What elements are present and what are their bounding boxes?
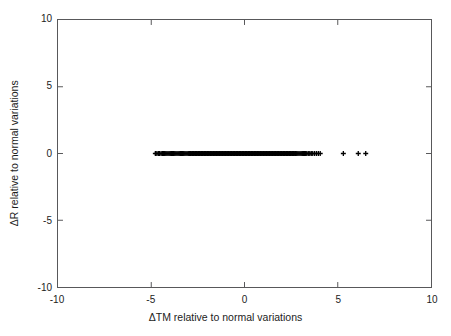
data-series-observations <box>153 151 368 156</box>
y-tick-label: -5 <box>28 216 52 226</box>
plot-area <box>57 19 432 288</box>
x-tick-label: -5 <box>146 295 155 305</box>
y-tick-label: 10 <box>28 14 52 24</box>
y-tick-label: -10 <box>28 283 52 293</box>
plot-canvas <box>58 20 431 287</box>
y-tick-label: 5 <box>28 81 52 91</box>
data-point <box>356 151 361 156</box>
data-point <box>363 151 368 156</box>
y-axis-title-wrapper: ΔR relative to normal variations <box>0 0 28 307</box>
x-tick-label: 5 <box>335 295 341 305</box>
x-tick-label: 0 <box>242 295 248 305</box>
y-tick-label: 0 <box>28 149 52 159</box>
x-tick-label: -10 <box>50 295 64 305</box>
data-point <box>341 151 346 156</box>
x-axis-title: ΔTM relative to normal variations <box>0 312 451 323</box>
y-axis-title: ΔR relative to normal variations <box>9 81 20 227</box>
scatter-plot-figure: -10-50510 -10-50510 ΔR relative to norma… <box>0 0 451 336</box>
x-tick-label: 10 <box>426 295 437 305</box>
